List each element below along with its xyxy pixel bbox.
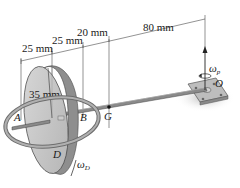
dimension-label-80mm: 80 mm bbox=[143, 21, 174, 33]
disk-D-label: D bbox=[52, 148, 61, 160]
disk-D bbox=[18, 64, 79, 177]
omega-p-label: ωp bbox=[209, 62, 221, 76]
point-B-label: B bbox=[80, 111, 87, 123]
dimension-label-20mm: 20 mm bbox=[77, 26, 108, 38]
dimension-label-25mm-1: 25 mm bbox=[22, 42, 53, 54]
point-O-label: O bbox=[215, 77, 223, 89]
point-G-label: G bbox=[104, 110, 112, 122]
gyroscope-diagram: 25 mm 25 mm 20 mm 80 mm ωp O 35 mm bbox=[0, 0, 240, 188]
point-A-label: A bbox=[13, 111, 21, 123]
point-G-marker bbox=[107, 105, 111, 109]
omega-D-label: ωD bbox=[77, 158, 90, 172]
